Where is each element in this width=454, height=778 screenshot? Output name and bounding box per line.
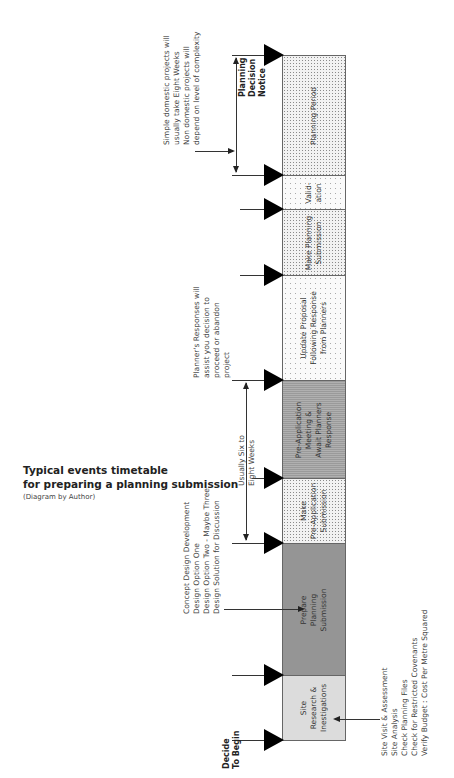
stage-planning-period: Planning Period xyxy=(282,55,346,176)
note-site-research: Site Visit & Assessment Site Analysis Ch… xyxy=(380,610,430,756)
diagram-caption: (Diagram by Author) xyxy=(23,493,95,501)
leader-line xyxy=(224,609,298,610)
arrow-down-icon xyxy=(233,166,239,173)
triangle-marker-icon xyxy=(264,198,284,220)
triangle-marker-icon xyxy=(264,467,284,489)
triangle-marker-icon xyxy=(264,164,284,186)
note-six-to-eight-weeks: Usually Six to Eight Weeks xyxy=(237,435,257,486)
arrow-down-icon xyxy=(243,534,249,541)
arrow-left-icon xyxy=(333,716,340,722)
arrow-up-icon xyxy=(243,382,249,389)
dimension-line xyxy=(236,58,237,172)
stage-label: Pre-Application Meeting & Await Planners… xyxy=(294,401,334,457)
stage-label: Make Pre-Application Submission xyxy=(299,483,329,539)
diagram-title: Typical events timetable for preparing a… xyxy=(23,463,238,491)
arrow-right-icon xyxy=(298,606,305,612)
note-concept-design: Concept Design Development Design Option… xyxy=(182,488,222,614)
stage-make-planning: Make Planning Submission xyxy=(282,209,346,276)
triangle-marker-icon xyxy=(264,729,284,751)
arrow-right-icon xyxy=(228,148,235,154)
stage-label: Update Proposal Following Response from … xyxy=(299,291,329,365)
stage-validation: Valid- ation xyxy=(282,175,346,210)
arrow-up-icon xyxy=(233,57,239,64)
stage-label: Site Research & Inestigations xyxy=(299,684,329,732)
stage-site-research: Site Research & Inestigations xyxy=(282,675,346,741)
title-line-1: Typical events timetable xyxy=(23,463,238,477)
leader-line xyxy=(340,719,380,720)
triangle-marker-icon xyxy=(264,664,284,686)
stage-update-proposal: Update Proposal Following Response from … xyxy=(282,275,346,381)
triangle-marker-icon xyxy=(264,264,284,286)
stage-label: Planning Period xyxy=(309,86,319,144)
triangle-marker-icon xyxy=(264,369,284,391)
stage-preapp-meeting: Pre-Application Meeting & Await Planners… xyxy=(282,380,346,479)
milestone-decide-to-begin: Decide To Begin xyxy=(222,731,242,769)
stage-make-preapp: Make Pre-Application Submission xyxy=(282,478,346,544)
milestone-planning-decision-notice: Planning Decision Notice xyxy=(238,57,268,97)
note-planning-period: Simple domestic projects will usually ta… xyxy=(162,32,202,145)
stage-label: Make Planning Submission xyxy=(304,215,324,269)
triangle-marker-icon xyxy=(264,532,284,554)
stage-label: Valid- ation xyxy=(304,182,324,203)
note-planners-responses: Planner's Responses will assist you deci… xyxy=(192,287,232,378)
